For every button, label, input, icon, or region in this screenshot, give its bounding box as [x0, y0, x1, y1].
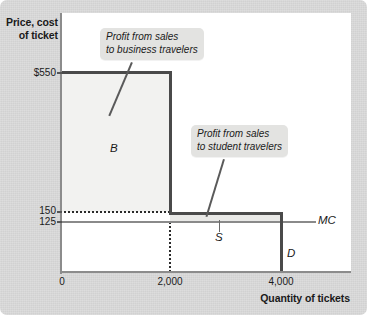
x-axis-title: Quantity of tickets: [190, 292, 350, 304]
guide-line-price-150: [64, 211, 170, 213]
y-tickmark-550: [57, 72, 62, 74]
y-axis: [60, 13, 62, 274]
demand-drop-at-2000: [169, 71, 172, 215]
x-tick-label-2000: 2,000: [140, 276, 200, 287]
marginal-cost-line: [62, 221, 316, 223]
y-tick-label-125: 125: [4, 216, 56, 227]
demand-drop-at-4000: [280, 212, 283, 272]
region-label-b: B: [110, 142, 118, 154]
x-axis: [60, 271, 351, 273]
callout-business-profit: Profit from sales to business travelers: [100, 28, 204, 60]
callout-student-profit: Profit from sales to student travelers: [191, 125, 288, 157]
region-label-s: S: [215, 231, 223, 243]
curve-label-d: D: [287, 247, 295, 259]
chart-figure: $550 150 125 0 2,000 4,000 Price, cost o…: [0, 0, 367, 315]
y-tick-label-550: $550: [4, 67, 56, 78]
y-tickmark-125: [57, 221, 62, 223]
x-tick-label-4000: 4,000: [251, 276, 311, 287]
y-axis-title: Price, cost of ticket: [2, 16, 58, 42]
y-tick-label-150: 150: [4, 205, 56, 216]
demand-segment-business: [62, 71, 172, 74]
y-tickmark-150: [57, 211, 62, 213]
demand-segment-student: [169, 212, 283, 215]
curve-label-mc: MC: [318, 214, 336, 226]
guide-line-quantity-2000: [169, 222, 171, 272]
leader-line-s-label: [219, 220, 220, 232]
x-tick-label-0: 0: [32, 276, 92, 287]
